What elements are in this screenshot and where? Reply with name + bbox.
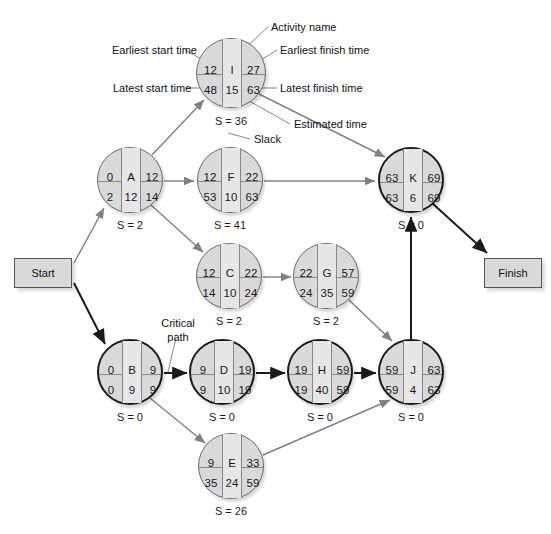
node-e-name: E — [222, 458, 242, 470]
node-i-latest-finish: 63 — [242, 85, 265, 97]
node-b-slack: S = 0 — [97, 411, 163, 423]
node-b-latest-start: 0 — [100, 385, 122, 397]
node-e-latest-start: 35 — [200, 478, 222, 490]
node-j-latest-start: 59 — [381, 385, 403, 397]
node-a-earliest-finish: 12 — [141, 172, 163, 184]
start-label: Start — [31, 267, 54, 279]
node-c-earliest-finish: 22 — [240, 268, 262, 280]
node-j-latest-finish: 63 — [423, 385, 445, 397]
node-f-estimated-time: 10 — [221, 192, 241, 204]
node-k-slack: S = 0 — [378, 219, 444, 231]
leader-slack — [228, 133, 250, 139]
activity-node-a[interactable]: 0 A 12 2 12 14 — [97, 147, 163, 213]
node-i-latest-start: 48 — [199, 85, 222, 97]
node-g-name: G — [317, 268, 337, 280]
node-b-earliest-finish: 9 — [142, 365, 164, 377]
node-j-earliest-finish: 63 — [423, 365, 445, 377]
activity-node-h[interactable]: 19 H 59 19 40 59 — [287, 339, 353, 405]
activity-node-g[interactable]: 22 G 57 24 35 59 — [293, 243, 359, 309]
node-d-earliest-finish: 19 — [234, 365, 256, 377]
node-e-slack: S = 26 — [198, 505, 264, 517]
node-d-earliest-start: 9 — [192, 365, 214, 377]
activity-node-f[interactable]: 12 F 22 53 10 63 — [197, 147, 263, 213]
node-g-earliest-finish: 57 — [337, 268, 359, 280]
node-e-earliest-finish: 33 — [242, 458, 264, 470]
label-critical-path: Critical path — [148, 317, 208, 345]
node-a-estimated-time: 12 — [121, 192, 141, 204]
node-h-latest-finish: 59 — [332, 385, 354, 397]
node-f-slack: S = 41 — [197, 219, 263, 231]
label-latest-finish-time: Latest finish time — [280, 82, 363, 94]
node-h-estimated-time: 40 — [312, 385, 332, 397]
activity-node-c[interactable]: 12 C 22 14 10 24 — [196, 243, 262, 309]
node-i-earliest-start: 12 — [199, 65, 222, 77]
network-diagram-canvas: Start Finish 12 I 27 48 15 63 S = 36 0 A… — [0, 0, 551, 534]
node-g-latest-start: 24 — [295, 288, 317, 300]
node-b-estimated-time: 9 — [122, 385, 142, 397]
node-g-latest-finish: 59 — [337, 288, 359, 300]
node-c-latest-finish: 24 — [240, 288, 262, 300]
node-e-estimated-time: 24 — [222, 478, 242, 490]
node-c-earliest-start: 12 — [198, 268, 220, 280]
node-e-earliest-start: 9 — [200, 458, 222, 470]
node-b-latest-finish: 9 — [142, 385, 164, 397]
node-g-estimated-time: 35 — [317, 288, 337, 300]
label-earliest-finish-time: Earliest finish time — [280, 44, 369, 56]
node-k-latest-start: 63 — [381, 193, 403, 205]
node-d-latest-finish: 19 — [234, 385, 256, 397]
node-f-latest-finish: 63 — [241, 192, 263, 204]
edge-a-i — [152, 100, 204, 155]
node-j-estimated-time: 4 — [403, 385, 423, 397]
node-h-latest-start: 19 — [290, 385, 312, 397]
node-i-slack: S = 36 — [196, 115, 266, 127]
label-latest-start-time: Latest start time — [113, 82, 191, 94]
activity-node-b[interactable]: 0 B 9 0 9 9 — [97, 339, 163, 405]
activity-node-i[interactable]: 12 I 27 48 15 63 — [196, 38, 266, 108]
activity-node-k[interactable]: 63 K 69 63 6 69 — [378, 147, 444, 213]
node-e-latest-finish: 59 — [242, 478, 264, 490]
node-k-earliest-finish: 69 — [423, 173, 445, 185]
label-activity-name: Activity name — [271, 21, 336, 33]
node-k-earliest-start: 63 — [381, 173, 403, 185]
node-h-earliest-finish: 59 — [332, 365, 354, 377]
edge-start-b — [74, 283, 105, 344]
node-b-earliest-start: 0 — [100, 365, 122, 377]
node-f-name: F — [221, 172, 241, 184]
label-critical-path-line2: path — [148, 331, 208, 345]
node-d-estimated-time: 10 — [214, 385, 234, 397]
node-i-earliest-finish: 27 — [242, 65, 265, 77]
finish-label: Finish — [498, 267, 527, 279]
node-h-slack: S = 0 — [287, 411, 353, 423]
node-k-name: K — [403, 173, 423, 185]
node-j-earliest-start: 59 — [381, 365, 403, 377]
start-node[interactable]: Start — [14, 258, 72, 288]
activity-node-e[interactable]: 9 E 33 35 24 59 — [198, 433, 264, 499]
node-d-latest-start: 9 — [192, 385, 214, 397]
node-f-latest-start: 53 — [199, 192, 221, 204]
label-slack: Slack — [254, 133, 281, 145]
activity-node-d[interactable]: 9 D 19 9 10 19 — [189, 339, 255, 405]
node-k-latest-finish: 69 — [423, 193, 445, 205]
node-c-name: C — [220, 268, 240, 280]
node-j-name: J — [403, 365, 423, 377]
node-g-slack: S = 2 — [293, 315, 359, 327]
label-estimated-time: Estimated time — [294, 118, 367, 130]
node-b-name: B — [122, 365, 142, 377]
edge-start-a — [74, 208, 104, 263]
label-earliest-start-time: Earliest start time — [112, 44, 197, 56]
node-i-estimated-time: 15 — [222, 85, 242, 97]
node-c-estimated-time: 10 — [220, 288, 240, 300]
finish-node[interactable]: Finish — [484, 258, 542, 288]
node-h-earliest-start: 19 — [290, 365, 312, 377]
node-j-slack: S = 0 — [378, 411, 444, 423]
activity-node-j[interactable]: 59 J 63 59 4 63 — [378, 339, 444, 405]
node-a-latest-start: 2 — [99, 192, 121, 204]
edge-layer — [0, 0, 551, 534]
edge-e-j — [263, 400, 390, 455]
node-d-name: D — [214, 365, 234, 377]
node-a-name: A — [121, 172, 141, 184]
node-f-earliest-start: 12 — [199, 172, 221, 184]
node-a-earliest-start: 0 — [99, 172, 121, 184]
node-a-latest-finish: 14 — [141, 192, 163, 204]
node-g-earliest-start: 22 — [295, 268, 317, 280]
